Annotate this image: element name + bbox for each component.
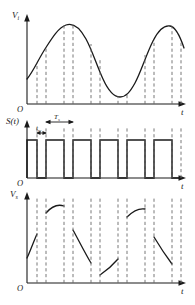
vs-y-axis-arrow	[24, 192, 30, 200]
vi-x-axis-label: t	[181, 107, 184, 117]
vs-axis-label: Vs	[10, 189, 19, 200]
st-origin-label: O	[17, 178, 23, 188]
vs-x-axis-arrow	[179, 280, 187, 286]
pulse-width-annotation: tw	[36, 124, 47, 135]
vs-segment-2	[46, 205, 64, 213]
vi-y-axis-arrow	[24, 14, 30, 22]
vi-origin-label: O	[17, 104, 23, 114]
vs-sampled-segments	[27, 205, 172, 275]
st-pulse-train	[27, 140, 181, 178]
sampling-period-annotation: Ts	[45, 113, 74, 124]
vs-segment-1	[27, 234, 37, 258]
st-y-axis-arrow	[24, 120, 30, 128]
waveform-figure: Vi t O Ts tw	[0, 0, 195, 305]
vs-segment-3	[73, 230, 91, 263]
vi-axis-label: Vi	[12, 10, 20, 21]
figure-svg: Vi t O Ts tw	[0, 0, 195, 305]
vs-segment-4	[100, 259, 118, 275]
vs-dashed-guides	[37, 198, 181, 283]
vi-dashed-guides	[37, 24, 181, 104]
st-dashed-guides	[37, 126, 181, 178]
panel-sampled-output: Vs t O	[10, 189, 186, 296]
st-x-axis-label: t	[181, 181, 184, 191]
st-axis-label: S(t)	[6, 116, 19, 126]
panel-sampling-pulse-train: Ts tw	[6, 113, 186, 191]
vs-origin-label: O	[17, 283, 23, 293]
vi-waveform	[27, 24, 184, 97]
panel-input-signal: Vi t O	[12, 10, 186, 117]
vi-x-axis-arrow	[179, 101, 187, 107]
vs-x-axis-label: t	[181, 286, 184, 296]
vs-segment-5	[127, 209, 145, 217]
sampling-period-label: Ts	[54, 113, 60, 122]
vs-segment-6	[154, 237, 172, 264]
